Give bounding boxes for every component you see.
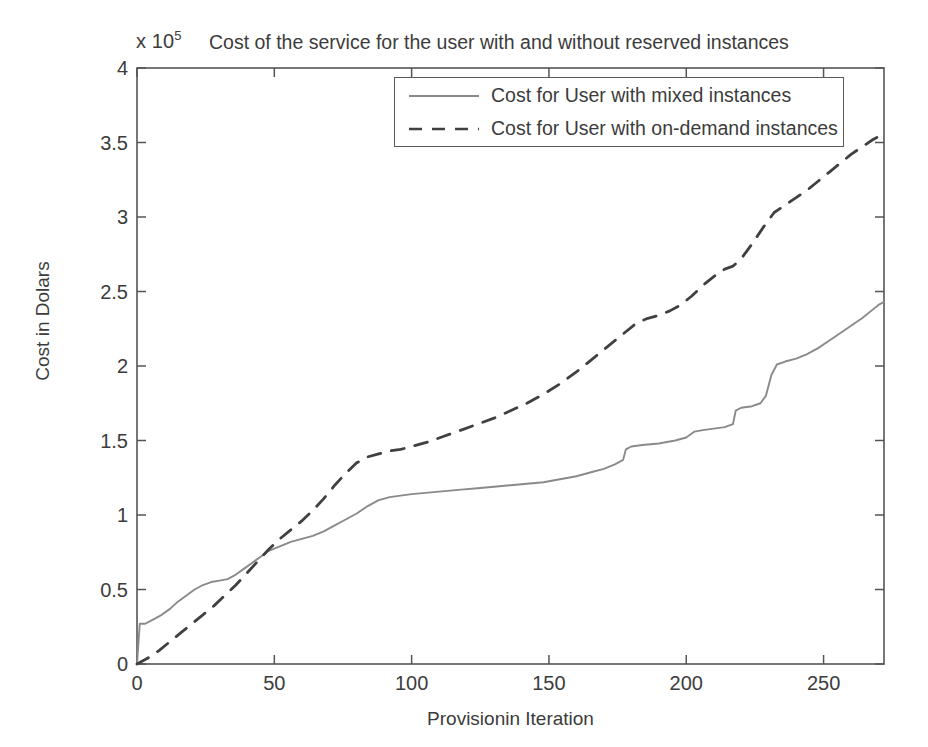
legend-item-on-demand-instances: Cost for User with on-demand instances: [395, 111, 843, 146]
series-line-1: [137, 302, 884, 664]
legend-item-mixed-instances: Cost for User with mixed instances: [395, 78, 843, 113]
legend: Cost for User with mixed instances Cost …: [394, 77, 844, 147]
series-line-2: [137, 134, 884, 664]
legend-label-mixed-instances: Cost for User with mixed instances: [491, 84, 791, 107]
legend-label-on-demand-instances: Cost for User with on-demand instances: [491, 117, 838, 140]
figure-canvas: x 105 Cost of the service for the user w…: [0, 0, 928, 747]
legend-swatch-solid-line: [407, 86, 481, 106]
axis-frame: [137, 68, 884, 664]
legend-swatch-dashed-line: [407, 119, 481, 139]
